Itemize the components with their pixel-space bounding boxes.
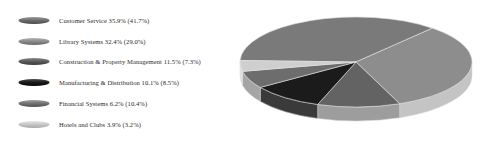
legend-item-hotels-and-clubs[interactable]: Hotels and Clubs 3.9% (3.2%) — [18, 114, 248, 135]
legend-swatch-icon — [18, 37, 50, 46]
pie-chart-figure: Customer Service 35.9% (41.7%) Library S… — [0, 0, 491, 142]
legend-swatch-icon — [18, 120, 50, 129]
legend-swatch-icon — [18, 78, 50, 87]
pie-top-faces — [240, 17, 472, 107]
legend-swatch-icon — [18, 16, 50, 25]
legend-item-label: Customer Service 35.9% (41.7%) — [59, 16, 149, 25]
legend-item-construction-property-management[interactable]: Construction & Property Management 11.5%… — [18, 52, 248, 73]
legend-item-label: Construction & Property Management 11.5%… — [59, 57, 201, 66]
legend-item-financial-systems[interactable]: Financial Systems 6.2% (10.4%) — [18, 93, 248, 114]
legend-item-manufacturing-distribution[interactable]: Manufacturing & Distribution 10.1% (8.5%… — [18, 72, 248, 93]
legend-item-label: Manufacturing & Distribution 10.1% (8.5%… — [59, 78, 179, 87]
legend-swatch-icon — [18, 57, 50, 66]
pie-chart-svg — [238, 6, 491, 136]
legend-item-library-systems[interactable]: Library Systems 32.4% (29.0%) — [18, 31, 248, 52]
chart-legend: Customer Service 35.9% (41.7%) Library S… — [18, 10, 248, 136]
legend-item-label: Financial Systems 6.2% (10.4%) — [59, 99, 147, 108]
legend-item-label: Library Systems 32.4% (29.0%) — [59, 37, 146, 46]
pie-chart[interactable] — [238, 6, 491, 136]
legend-swatch-icon — [18, 99, 50, 108]
legend-item-customer-service[interactable]: Customer Service 35.9% (41.7%) — [18, 10, 248, 31]
legend-item-label: Hotels and Clubs 3.9% (3.2%) — [59, 120, 141, 129]
